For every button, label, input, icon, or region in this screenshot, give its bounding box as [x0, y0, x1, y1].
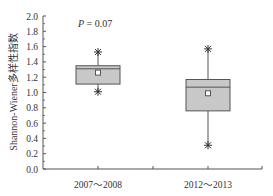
box-1: [76, 48, 120, 96]
y-tick-label: 1.4: [26, 57, 38, 67]
y-tick-label: 0.6: [26, 119, 38, 129]
mean-marker: [206, 91, 211, 96]
x-tick-label: 2012～2013: [184, 180, 232, 190]
mean-marker: [96, 70, 101, 75]
y-tick-label: 0.2: [26, 149, 38, 159]
y-axis-label: Shannon-Wiener多样性指数: [7, 33, 19, 150]
box-plot-chart: 0.00.20.40.60.81.01.21.41.61.82.0 2007～2…: [0, 0, 273, 196]
y-tick-label: 1.0: [26, 88, 38, 98]
y-tick-label: 1.2: [26, 73, 38, 83]
outlier-star-icon: [94, 48, 102, 56]
x-tick-label: 2007～2008: [74, 180, 122, 190]
x-axis: 2007～20082012～2013: [43, 166, 262, 190]
box-2: [186, 45, 230, 149]
boxes: [76, 45, 230, 149]
y-axis: 0.00.20.40.60.81.01.21.41.61.82.0: [26, 12, 46, 175]
y-tick-label: 1.6: [26, 42, 38, 52]
y-tick-label: 0.8: [26, 103, 38, 113]
outlier-star-icon: [94, 88, 102, 96]
y-tick-label: 0.4: [26, 134, 38, 144]
p-value-annotation: P = 0.07: [77, 18, 112, 29]
y-tick-label: 0.0: [26, 165, 38, 175]
y-tick-label: 2.0: [26, 12, 38, 22]
outlier-star-icon: [204, 45, 212, 53]
y-tick-label: 1.8: [26, 27, 38, 37]
outlier-star-icon: [204, 141, 212, 149]
